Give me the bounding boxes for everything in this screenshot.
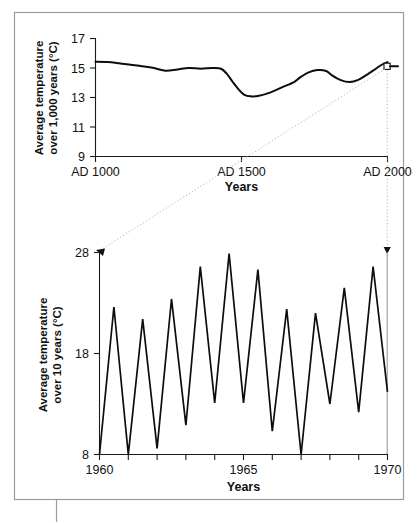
top-chart-y-axis-title-line1: Average temperature	[33, 41, 45, 156]
bottom-chart-y-axis-title-line1: Average temperature	[37, 298, 49, 413]
bottom-chart-x-axis-title: Years	[227, 480, 260, 494]
top-chart-ytick-label-17: 17	[71, 32, 85, 46]
top-chart-data-curve	[96, 62, 388, 97]
bottom-chart-ytick-label-18: 18	[75, 347, 89, 361]
bottom-chart-xtick-label-1970: 1970	[374, 463, 402, 477]
top-chart-ytick-label-15: 15	[71, 62, 85, 76]
bottom-chart-data-zigzag	[100, 254, 388, 455]
top-chart-ytick-label-9: 9	[78, 150, 85, 164]
temperature-figure: 17 15 13 11 9 AD 1000 AD 1500 AD 2000 Ye…	[0, 0, 419, 523]
chart-millennial: 17 15 13 11 9 AD 1000 AD 1500 AD 2000 Ye…	[33, 32, 412, 194]
top-chart-ytick-label-11: 11	[72, 121, 85, 135]
bottom-chart-ytick-label-28: 28	[75, 246, 89, 260]
top-chart-x-axis-title: Years	[225, 180, 258, 194]
top-chart-xtick-label-1500: AD 1500	[217, 165, 266, 179]
figure-container: 17 15 13 11 9 AD 1000 AD 1500 AD 2000 Ye…	[0, 0, 419, 523]
top-chart-xtick-label-1000: AD 1000	[71, 165, 120, 179]
figure-frame	[15, 13, 404, 500]
bottom-chart-xtick-label-1960: 1960	[86, 463, 114, 477]
zoom-projection-connectors	[96, 69, 391, 256]
bottom-chart-y-axis-title-line2: over 10 years (°C)	[51, 306, 63, 403]
top-chart-y-axis-title-line2: over 1,000 years (°C)	[47, 41, 59, 154]
top-chart-ytick-label-13: 13	[71, 91, 85, 105]
bottom-chart-ytick-label-8: 8	[82, 448, 89, 462]
chart-decadal: 28 18 8 1960 1965 1970 Years Average tem…	[37, 246, 401, 494]
bottom-chart-xtick-label-1965: 1965	[230, 463, 258, 477]
bottom-chart-xticks	[100, 455, 388, 461]
